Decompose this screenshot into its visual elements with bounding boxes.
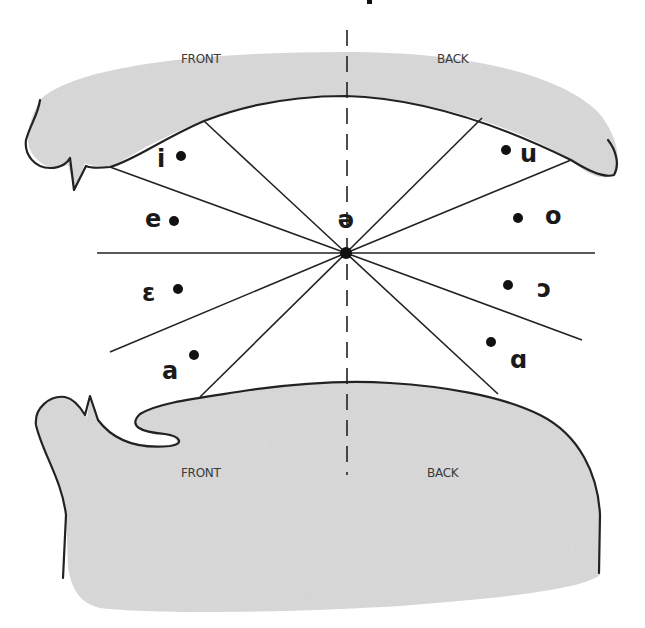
tongue-fill <box>36 382 600 612</box>
vowel-dot-script-a <box>486 337 496 347</box>
upper-front-label: FRONT <box>181 52 221 66</box>
vowel-label-script-a: ɑ <box>510 346 527 374</box>
vowel-label-a: a <box>162 357 178 385</box>
vowel-dot-a <box>189 350 199 360</box>
vowel-dot-u <box>501 145 511 155</box>
vowel-dot-open-o <box>503 280 513 290</box>
vowel-e: e <box>145 205 179 233</box>
title-fragment-mark <box>367 0 372 4</box>
vowel-label-schwa: ə <box>338 206 354 234</box>
vowel-dot-e <box>169 216 179 226</box>
vowel-label-open-o: ɔ <box>537 275 551 303</box>
vowel-u: u <box>501 140 537 168</box>
vowel-a: a <box>162 350 199 385</box>
vowel-mouth-diagram: FRONT BACK FRONT BACK ə i e ɛ a u <box>0 0 645 628</box>
vowel-i: i <box>157 145 186 173</box>
vowel-label-o: o <box>545 202 562 230</box>
tongue <box>36 382 600 612</box>
vowel-label-u: u <box>520 140 537 168</box>
vowel-dot-i <box>176 151 186 161</box>
ray-back-low <box>346 253 498 394</box>
vowel-epsilon: ɛ <box>142 279 183 307</box>
schwa-center-dot <box>340 247 352 259</box>
vowel-dot-o <box>513 213 523 223</box>
ray-back-upper-mid <box>346 160 571 253</box>
vowel-open-o: ɔ <box>503 275 551 303</box>
ray-front-low <box>200 253 346 397</box>
upper-back-label: BACK <box>437 52 470 66</box>
vowel-label-e: e <box>145 205 161 233</box>
ray-front-high <box>204 121 346 253</box>
vowel-script-a: ɑ <box>486 337 527 374</box>
vowel-o: o <box>513 202 562 230</box>
lower-front-label: FRONT <box>181 466 221 480</box>
vowel-dot-epsilon <box>173 284 183 294</box>
vowel-label-epsilon: ɛ <box>142 279 155 307</box>
vowel-label-i: i <box>157 145 165 173</box>
ray-back-high <box>346 118 482 253</box>
lower-back-label: BACK <box>427 466 460 480</box>
